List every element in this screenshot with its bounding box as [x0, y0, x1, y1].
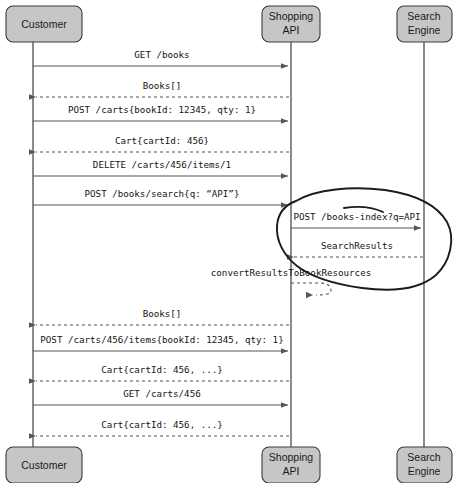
- actor-label-customer-top: Customer: [21, 18, 67, 30]
- actor-label-shopping-api-bottom-line1: Shopping: [269, 451, 314, 463]
- message-label-11: POST /carts/456/items{bookId: 12345, qty…: [40, 334, 283, 345]
- actor-label-search-engine-top-line2: Engine: [408, 24, 441, 36]
- message-label-2: Books[]: [143, 80, 182, 91]
- message-label-8: SearchResults: [321, 240, 393, 251]
- actor-label-shopping-api-top-line1: Shopping: [269, 10, 314, 22]
- actor-label-customer-bottom: Customer: [21, 459, 67, 471]
- sequence-diagram-svg: GET /books Books[] POST /carts{bookId: 1…: [0, 0, 458, 483]
- actor-customer-bottom[interactable]: Customer: [6, 447, 82, 483]
- actor-label-search-engine-bottom-line1: Search: [407, 451, 440, 463]
- message-label-5: DELETE /carts/456/items/1: [93, 159, 231, 170]
- message-label-6: POST /books/search{q: “API”}: [85, 188, 240, 199]
- message-label-12: Cart{cartId: 456, ...}: [101, 364, 223, 375]
- message-label-13: GET /carts/456: [123, 388, 200, 399]
- message-label-7: POST /books-index?q=API: [293, 211, 420, 222]
- actor-search-engine-bottom[interactable]: Search Engine: [397, 447, 452, 483]
- message-label-10: Books[]: [143, 308, 182, 319]
- actor-customer-top[interactable]: Customer: [6, 6, 82, 42]
- message-label-14: Cart{cartId: 456, ...}: [101, 419, 223, 430]
- self-message-loop-9: [291, 283, 331, 295]
- actor-search-engine-top[interactable]: Search Engine: [397, 6, 452, 42]
- actor-label-search-engine-top-line1: Search: [407, 10, 440, 22]
- message-label-9: convertResultsToBookResources: [211, 267, 371, 278]
- message-label-1: GET /books: [134, 49, 189, 60]
- actor-shopping-api-top[interactable]: Shopping API: [262, 6, 320, 42]
- actor-shopping-api-bottom[interactable]: Shopping API: [262, 447, 320, 483]
- messages-group: GET /books Books[] POST /carts{bookId: 1…: [33, 49, 423, 436]
- actor-boxes-bottom: Customer Shopping API Search Engine: [6, 447, 452, 483]
- actor-label-shopping-api-top-line2: API: [283, 24, 300, 36]
- message-label-4: Cart{cartId: 456}: [115, 135, 209, 146]
- sequence-diagram-canvas: GET /books Books[] POST /carts{bookId: 1…: [0, 0, 458, 483]
- actor-label-search-engine-bottom-line2: Engine: [408, 465, 441, 477]
- self-message-arrowhead-9: [306, 292, 313, 298]
- message-label-3: POST /carts{bookId: 12345, qty: 1}: [68, 104, 256, 115]
- actor-label-shopping-api-bottom-line2: API: [283, 465, 300, 477]
- actor-boxes-top: Customer Shopping API Search Engine: [6, 6, 452, 42]
